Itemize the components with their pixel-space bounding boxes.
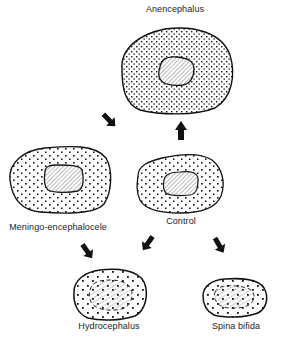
- hydrocephalus-nucleus: [89, 280, 132, 310]
- arrow-meningo-to-hydrocephalus: [77, 241, 97, 262]
- meningo-encephalocele-section: [10, 147, 111, 213]
- spina-bifida-nucleus: [214, 286, 254, 309]
- label-anencephalus: Anencephalus: [146, 4, 204, 14]
- embryo-malformation-diagram: [0, 0, 281, 343]
- label-hydrocephalus: Hydrocephalus: [78, 321, 139, 331]
- anencephalus-section: [122, 28, 233, 114]
- label-control: Control: [166, 216, 196, 226]
- hydrocephalus-section: [74, 269, 146, 320]
- arrow-control-to-hydrocephalus: [138, 233, 158, 254]
- arrow-control-to-anencephalus: [175, 121, 187, 140]
- control-section: [137, 155, 223, 214]
- label-meningo-encephalocele: Meningo-encephalocele: [9, 222, 107, 232]
- arrow-control-to-spina-bifida: [210, 235, 229, 256]
- arrow-anencephalus-to-meningo: [99, 110, 120, 131]
- spina-bifida-section: [203, 279, 267, 317]
- label-spina-bifida: Spina bifida: [212, 321, 260, 331]
